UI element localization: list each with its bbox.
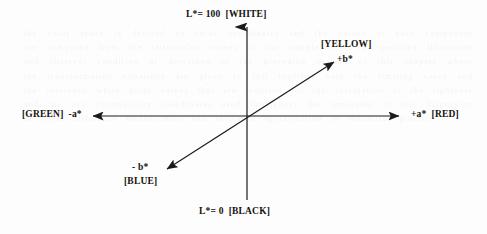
label-red-color: [RED] <box>432 109 459 119</box>
cielab-axes-figure: the color space is defined by three coor… <box>0 0 487 234</box>
label-green-color: [GREEN] <box>22 109 64 119</box>
label-neg-a-star: [GREEN]-a* <box>22 109 82 119</box>
label-pos-a-value: +a* <box>411 109 427 119</box>
label-yellow-color: [YELLOW] <box>321 39 372 49</box>
label-lightness-max-value: L*= 100 <box>186 9 221 19</box>
label-lightness-min: L*= 0[BLACK] <box>199 206 270 216</box>
label-pos-a-star: +a*[RED] <box>411 109 459 119</box>
label-neg-a-value: -a* <box>69 109 82 119</box>
label-pos-b-star: +b* <box>337 54 353 64</box>
label-black-color: [BLACK] <box>229 206 271 216</box>
label-lightness-max: L*= 100[WHITE] <box>186 9 267 19</box>
label-blue-color: [BLUE] <box>124 176 157 186</box>
label-neg-b-star: - b* <box>132 162 148 172</box>
label-lightness-min-value: L*= 0 <box>199 206 224 216</box>
label-white-color: [WHITE] <box>226 9 267 19</box>
